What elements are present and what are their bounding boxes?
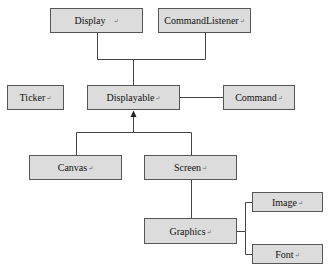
paragraph-mark-icon: ↵ [46, 94, 51, 101]
node-canvas[interactable]: Canvas ↵ [29, 155, 122, 180]
node-screen[interactable]: Screen ↵ [144, 155, 237, 180]
node-label: Font [275, 249, 293, 260]
edge-canvas-displayable [77, 133, 134, 156]
node-label: Ticker [20, 92, 46, 103]
node-image[interactable]: Image ↵ [252, 192, 323, 212]
paragraph-mark-icon: ↵ [298, 199, 303, 206]
edge-screen-displayable [134, 133, 192, 156]
node-label: Screen [174, 162, 201, 173]
inheritance-arrowhead-icon [131, 111, 137, 118]
paragraph-mark-icon: ↵ [278, 94, 283, 101]
node-label: Graphics [169, 226, 205, 237]
node-displayable[interactable]: Displayable ↵ [87, 85, 180, 110]
node-graphics[interactable]: Graphics ↵ [144, 218, 237, 244]
node-font[interactable]: Font ↵ [252, 244, 323, 264]
paragraph-mark-icon: ↵ [88, 164, 93, 171]
edge-display-displayable [98, 33, 134, 60]
node-label: Displayable [107, 92, 155, 103]
node-label: CommandListener [164, 15, 238, 26]
paragraph-mark-icon: ↵ [155, 94, 160, 101]
edge-commandlistener-displayable [134, 33, 206, 60]
paragraph-mark-icon: ↵ [295, 251, 300, 258]
paragraph-mark-icon: ↵ [202, 164, 207, 171]
node-label: Display [74, 15, 105, 26]
node-label: Command [235, 92, 277, 103]
node-label: Image [272, 197, 297, 208]
node-label: Canvas [58, 162, 87, 173]
paragraph-mark-icon: ↵ [207, 228, 212, 235]
paragraph-mark-icon: ↵ [240, 17, 245, 24]
diagram-canvas: Display ↵ CommandListener ↵ Ticker ↵ Dis… [0, 0, 330, 273]
node-command[interactable]: Command ↵ [223, 85, 295, 110]
node-display[interactable]: Display ↵ [50, 8, 143, 33]
node-ticker[interactable]: Ticker ↵ [7, 85, 64, 110]
node-commandlistener[interactable]: CommandListener ↵ [158, 8, 251, 33]
paragraph-mark-icon: ↵ [114, 17, 119, 24]
